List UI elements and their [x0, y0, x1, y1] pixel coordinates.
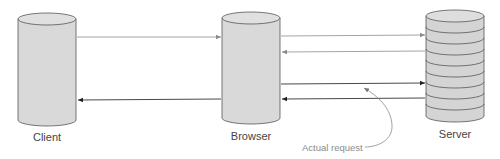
- arrow-browser-to-server-preflight: [281, 35, 425, 36]
- callout-curve: [364, 88, 392, 147]
- server-label: Server: [439, 128, 472, 140]
- browser-node: Browser: [222, 12, 280, 142]
- arrow-browser-to-client: [78, 99, 221, 100]
- arrow-server-to-browser-actual: [282, 98, 425, 99]
- browser-label: Browser: [231, 130, 272, 142]
- client-node: Client: [18, 13, 76, 143]
- arrow-browser-to-server-actual: [281, 83, 425, 84]
- request-flow-diagram: Client Browser Server Actual request: [0, 0, 500, 159]
- browser-cylinder-icon: [222, 18, 280, 124]
- arrow-server-to-browser-preflight: [282, 51, 425, 52]
- callout-label: Actual request: [302, 142, 363, 153]
- server-database-icon: [426, 16, 484, 122]
- client-cylinder-icon: [18, 19, 76, 126]
- client-label: Client: [33, 131, 61, 143]
- server-node: Server: [426, 10, 484, 140]
